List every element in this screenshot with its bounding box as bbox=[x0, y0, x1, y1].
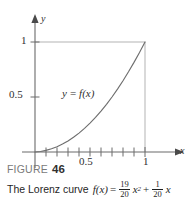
caption-prefix-text: The Lorenz curve bbox=[7, 183, 89, 196]
caption-equals-sign: = bbox=[108, 183, 118, 196]
figure-number: 46 bbox=[52, 163, 65, 175]
caption-plus-sign: + bbox=[141, 183, 151, 196]
figure-number-line: FIGURE46 bbox=[7, 163, 195, 176]
y-axis bbox=[31, 14, 38, 168]
fraction-denominator: 20 bbox=[152, 189, 163, 199]
y-tick-label-0.5: 0.5 bbox=[9, 89, 23, 100]
fraction-denominator: 20 bbox=[119, 189, 130, 199]
figure-label: FIGURE bbox=[7, 163, 48, 175]
figure-caption: FIGURE46 The Lorenz curvef(x)=1920x2+120… bbox=[7, 163, 195, 199]
y-tick-label-1: 1 bbox=[21, 35, 27, 46]
caption-equation-line: The Lorenz curvef(x)=1920x2+120x bbox=[7, 180, 195, 199]
curve-annotation-rhs: f(x) bbox=[79, 87, 94, 99]
fraction-numerator: 19 bbox=[119, 180, 130, 189]
figure-container: y x 1 0.5 0.5 1 y=f(x) FIGURE46 The Lore… bbox=[0, 0, 195, 203]
curve-annotation-equals: = bbox=[67, 87, 79, 99]
caption-function-name: f(x) bbox=[93, 183, 108, 196]
term2-variable: x bbox=[166, 183, 171, 196]
fraction-numerator: 1 bbox=[154, 180, 160, 189]
curve-annotation-label: y=f(x) bbox=[62, 88, 94, 99]
x-axis-label: x bbox=[180, 146, 184, 156]
lorenz-curve-plot bbox=[0, 0, 195, 172]
plot-area: y x 1 0.5 0.5 1 y=f(x) bbox=[0, 0, 195, 172]
fraction-19-over-20: 1920 bbox=[119, 180, 130, 199]
fraction-1-over-20: 120 bbox=[152, 180, 163, 199]
y-axis-label: y bbox=[41, 14, 45, 24]
